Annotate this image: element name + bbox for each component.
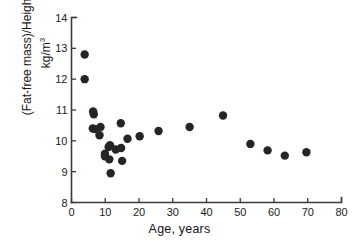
y-tick-label: 8 xyxy=(61,197,67,209)
data-point xyxy=(246,140,254,148)
data-point xyxy=(80,50,88,58)
data-point xyxy=(118,157,126,165)
x-axis-title-text: Age, years xyxy=(149,222,211,236)
data-point xyxy=(105,155,113,163)
x-tick-label: 50 xyxy=(234,206,246,218)
y-axis-title-line1: (Fat-free mass)/Height3 xyxy=(16,0,35,148)
data-point xyxy=(135,132,143,140)
y-tick-label: 11 xyxy=(56,104,67,116)
data-point xyxy=(106,169,114,177)
data-point xyxy=(281,151,289,159)
data-point xyxy=(80,75,88,83)
scatter-chart-figure: 891011121314 01020304050607080 Age, year… xyxy=(0,0,359,243)
x-axis-ticks: 01020304050607080 xyxy=(68,198,347,218)
x-tick-label: 10 xyxy=(99,206,111,218)
x-tick-label: 20 xyxy=(133,206,145,218)
data-point xyxy=(117,119,125,127)
data-point xyxy=(95,131,103,139)
x-axis-title: Age, years xyxy=(0,219,359,237)
y-tick-label: 9 xyxy=(61,166,67,178)
y-axis-title-line2: kg/m3 xyxy=(35,0,54,148)
y-axis-title: (Fat-free mass)/Height3 kg/m3 xyxy=(16,0,50,148)
x-tick-label: 60 xyxy=(268,206,280,218)
y-tick-label: 14 xyxy=(55,12,67,24)
y-tick-label: 12 xyxy=(55,73,67,85)
data-point xyxy=(90,110,98,118)
data-point xyxy=(123,134,131,142)
data-point xyxy=(263,146,271,154)
x-tick-label: 70 xyxy=(302,206,314,218)
data-point xyxy=(219,111,227,119)
x-tick-label: 0 xyxy=(68,206,74,218)
x-tick-label: 80 xyxy=(335,206,347,218)
y-axis-ticks: 891011121314 xyxy=(55,12,76,209)
data-points-group xyxy=(80,50,310,177)
data-point xyxy=(185,123,193,131)
data-point xyxy=(117,144,125,152)
data-point xyxy=(302,148,310,156)
x-tick-label: 30 xyxy=(167,206,179,218)
y-tick-label: 10 xyxy=(55,135,67,147)
y-tick-label: 13 xyxy=(55,42,67,54)
data-point xyxy=(96,123,104,131)
x-tick-label: 40 xyxy=(200,206,212,218)
data-point xyxy=(154,127,162,135)
